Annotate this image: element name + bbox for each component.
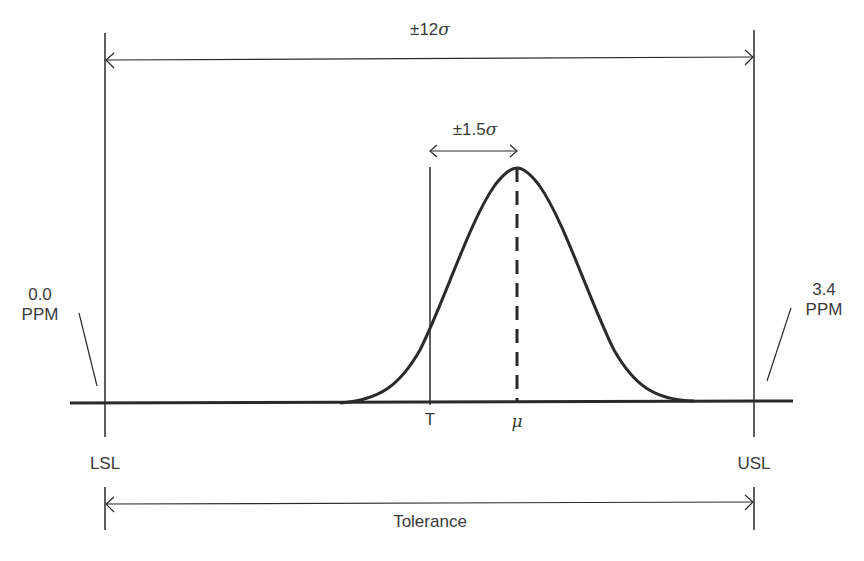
top-span-label: ±12σ [380,20,480,40]
mean-label: μ [507,412,527,432]
shift-span-value: ±1.5 [453,120,486,139]
tolerance-arrow [106,495,753,512]
top-span-value: ±12 [410,20,438,39]
shift-span-arrow [430,145,517,157]
right-ppm-unit: PPM [799,300,849,320]
lsl-label: LSL [80,454,130,474]
left-ppm-label: 0.0 PPM [15,285,65,324]
right-ppm-value: 3.4 [799,280,849,300]
right-ppm-leader [767,308,791,381]
top-span-arrow [106,50,753,68]
right-ppm-label: 3.4 PPM [799,280,849,319]
left-ppm-unit: PPM [15,305,65,325]
left-ppm-value: 0.0 [15,285,65,305]
usl-label: USL [729,454,779,474]
diagram-canvas [0,0,864,561]
target-label: T [420,410,440,430]
shift-span-label: ±1.5σ [425,120,525,140]
left-ppm-leader [79,313,97,386]
tolerance-label: Tolerance [360,512,500,532]
sigma-symbol: σ [438,19,450,39]
sigma-symbol: σ [486,119,498,139]
